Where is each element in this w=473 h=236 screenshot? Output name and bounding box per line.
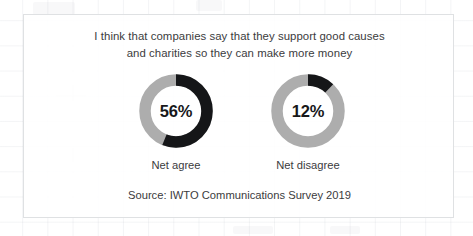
chart-card: I think that companies say that they sup… <box>23 14 454 218</box>
donut-ring-net-agree: 56% <box>137 72 215 150</box>
chart-source-note: Source: IWTO Communications Survey 2019 <box>24 189 455 201</box>
chart-title-line-2: and charities so they can make more mone… <box>24 45 455 62</box>
chart-title: I think that companies say that they sup… <box>24 28 455 62</box>
donut-value-net-disagree: 12% <box>269 72 347 150</box>
donut-value-net-agree: 56% <box>137 72 215 150</box>
donut-chart-net-agree: 56% <box>110 72 242 154</box>
donut-ring-net-disagree: 12% <box>269 72 347 150</box>
donut-chart-group: 56% 12% <box>24 72 455 154</box>
chart-title-line-1: I think that companies say that they sup… <box>24 28 455 45</box>
donut-label-group: Net agree Net disagree <box>24 159 455 177</box>
screenshot-root: I think that companies say that they sup… <box>0 0 473 236</box>
donut-chart-net-disagree: 12% <box>242 72 374 154</box>
donut-label-net-disagree: Net disagree <box>242 159 374 171</box>
scan-smudge <box>233 226 273 234</box>
scan-smudge <box>196 0 222 11</box>
donut-label-net-agree: Net agree <box>110 159 242 171</box>
scan-smudge <box>330 226 360 234</box>
